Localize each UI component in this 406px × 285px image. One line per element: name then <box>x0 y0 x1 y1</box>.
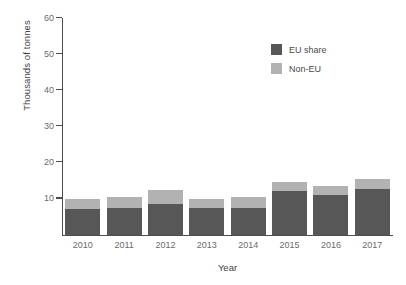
bar-segment-non-eu[interactable] <box>272 182 307 191</box>
bar-segment-non-eu[interactable] <box>231 197 266 208</box>
bar-segment-non-eu[interactable] <box>189 199 224 208</box>
legend-swatch-icon <box>271 63 282 74</box>
x-axis-tick-label: 2017 <box>355 240 390 250</box>
bar-segment-eu-share[interactable] <box>355 189 390 234</box>
bar-segment-eu-share[interactable] <box>272 191 307 234</box>
x-axis-title: Year <box>62 262 393 273</box>
bar-chart: Thousands of tonnes 102030405060 2010201… <box>0 0 406 285</box>
x-axis-tick-label: 2015 <box>272 240 307 250</box>
x-axis-tick-label: 2010 <box>65 240 100 250</box>
x-axis-line <box>62 235 393 236</box>
bar-segment-non-eu[interactable] <box>355 179 390 190</box>
x-axis-tick-label: 2014 <box>231 240 266 250</box>
y-axis-tick-label: 10 <box>28 194 54 203</box>
bar-stack[interactable] <box>148 18 183 235</box>
bar-segment-non-eu[interactable] <box>65 199 100 210</box>
plot-area: 102030405060 <box>62 18 393 236</box>
legend-item[interactable]: EU share <box>271 44 327 55</box>
chart-legend: EU shareNon-EU <box>271 44 327 82</box>
bar-segment-eu-share[interactable] <box>189 208 224 235</box>
bar-stack[interactable] <box>189 18 224 235</box>
bar-segment-eu-share[interactable] <box>148 204 183 235</box>
legend-label: Non-EU <box>289 64 321 74</box>
bar-segment-eu-share[interactable] <box>65 209 100 234</box>
bar-stack[interactable] <box>65 18 100 235</box>
legend-item[interactable]: Non-EU <box>271 63 327 74</box>
y-axis-tick-label: 20 <box>28 158 54 167</box>
bar-segment-eu-share[interactable] <box>107 208 142 235</box>
bar-segment-eu-share[interactable] <box>231 208 266 235</box>
y-axis-tick-label: 40 <box>28 86 54 95</box>
bar-segment-eu-share[interactable] <box>313 195 348 235</box>
legend-swatch-icon <box>271 44 282 55</box>
x-axis-tick-labels: 20102011201220132014201520162017 <box>62 240 393 250</box>
bar-stack[interactable] <box>231 18 266 235</box>
bar-segment-non-eu[interactable] <box>148 190 183 204</box>
bar-segment-non-eu[interactable] <box>313 186 348 195</box>
x-axis-tick-label: 2016 <box>313 240 348 250</box>
y-axis-tick-label: 50 <box>28 50 54 59</box>
x-axis-tick-label: 2012 <box>148 240 183 250</box>
bar-segment-non-eu[interactable] <box>107 197 142 208</box>
y-axis-tick-label: 60 <box>28 14 54 23</box>
x-axis-tick-label: 2013 <box>189 240 224 250</box>
legend-label: EU share <box>289 45 327 55</box>
x-axis-tick-label: 2011 <box>107 240 142 250</box>
bar-stack[interactable] <box>107 18 142 235</box>
bar-stack[interactable] <box>355 18 390 235</box>
bar-series-group <box>62 18 393 235</box>
y-axis-tick-label: 30 <box>28 122 54 131</box>
